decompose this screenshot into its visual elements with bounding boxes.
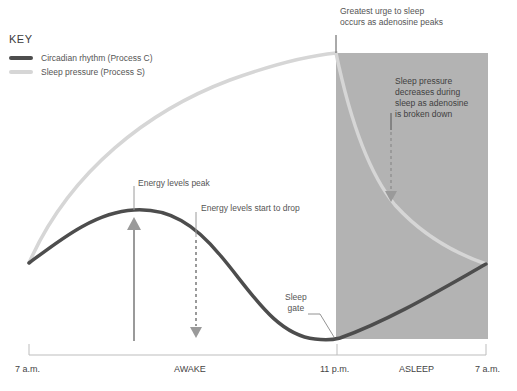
annotation-line: Sleep: [285, 292, 307, 303]
axis-tick-label-11pm: 11 p.m.: [320, 364, 349, 374]
annotation-line: decreases during: [395, 87, 468, 98]
circadian-swatch-icon: [9, 56, 33, 60]
annotation-line: occurs as adenosine peaks: [340, 17, 443, 28]
sleep-pressure-swatch-icon: [9, 70, 33, 74]
annotation-line: Sleep pressure: [395, 76, 468, 87]
key-label-circadian: Circadian rhythm (Process C): [41, 53, 152, 63]
axis-period-awake: AWAKE: [174, 364, 206, 374]
key-item-sleep-pressure: Sleep pressure (Process S): [9, 67, 145, 77]
annotation-line: is broken down: [395, 109, 468, 120]
key-label-sleep-pressure: Sleep pressure (Process S): [41, 67, 145, 77]
key-item-circadian: Circadian rhythm (Process C): [9, 53, 152, 63]
key-title: KEY: [9, 33, 33, 45]
annotation-line: sleep as adenosine: [395, 98, 468, 109]
annotation-greatest-urge: Greatest urge to sleep occurs as adenosi…: [340, 6, 443, 28]
arrow-down-icon: [190, 327, 202, 338]
annotation-pressure-decrease: Sleep pressure decreases during sleep as…: [395, 76, 468, 120]
annotation-energy-drop: Energy levels start to drop: [201, 203, 300, 214]
annotation-sleep-gate: Sleep gate: [285, 292, 307, 314]
annotation-energy-peak: Energy levels peak: [138, 178, 210, 189]
axis-tick-label-7am-start: 7 a.m.: [15, 364, 40, 374]
axis-period-asleep: ASLEEP: [399, 364, 434, 374]
annotation-line: gate: [285, 303, 307, 314]
sleep-gate-leader: [308, 314, 334, 337]
arrow-up-icon: [127, 217, 141, 230]
annotation-line: Greatest urge to sleep: [340, 6, 443, 17]
axis-tick-label-7am-end: 7 a.m.: [475, 364, 500, 374]
